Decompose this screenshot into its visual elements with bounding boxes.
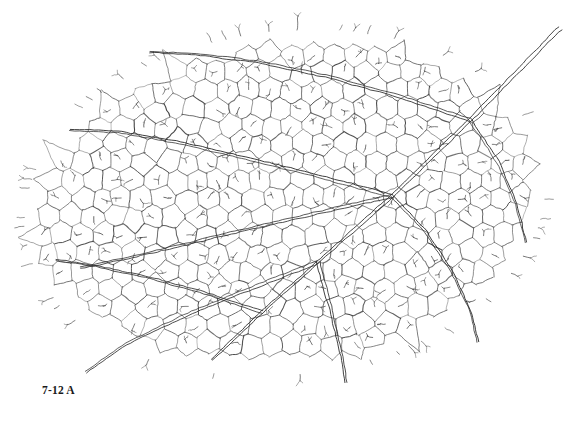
- minor-vein: [292, 137, 293, 148]
- minor-vein: [207, 144, 208, 148]
- minor-vein: [217, 85, 218, 98]
- minor-vein: [295, 283, 296, 298]
- leaf-venation-illustration: [0, 0, 577, 422]
- minor-vein: [393, 245, 394, 260]
- minor-vein: [397, 100, 398, 114]
- figure-background: [0, 0, 577, 422]
- minor-vein: [314, 176, 315, 184]
- minor-vein: [93, 230, 94, 241]
- figure-caption: 7-12 A: [42, 384, 75, 396]
- minor-vein: [270, 141, 271, 149]
- minor-vein: [187, 246, 188, 260]
- minor-vein: [482, 210, 483, 223]
- minor-vein: [405, 119, 406, 133]
- figure-page: 7-12 A: [0, 0, 577, 422]
